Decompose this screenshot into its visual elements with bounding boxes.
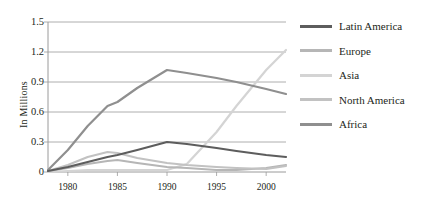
legend-color-swatch: [300, 74, 332, 77]
legend-label: Europe: [339, 45, 371, 57]
line-chart-figure: In Millions 00.30.60.91.21.5 19801985199…: [0, 0, 421, 206]
x-axis-tick-label: 1990: [147, 182, 187, 192]
series-line-africa: [48, 70, 286, 170]
x-axis-tick-label: 2000: [246, 182, 286, 192]
y-axis-tick-label: 1.5: [31, 17, 44, 28]
series-line-north-america: [48, 152, 286, 171]
chart-legend: Latin AmericaEuropeAsiaNorth AmericaAfri…: [300, 14, 421, 137]
legend-item: Europe: [300, 39, 421, 64]
x-axis-tick-label: 1985: [97, 182, 137, 192]
x-axis-tick-label: 1995: [197, 182, 237, 192]
y-axis-tick-label: 0.9: [31, 77, 44, 88]
legend-item: Asia: [300, 63, 421, 88]
x-axis-tick-label: 1980: [48, 182, 88, 192]
legend-label: Latin America: [339, 20, 402, 32]
legend-item: Africa: [300, 112, 421, 137]
legend-color-swatch: [300, 25, 332, 28]
y-axis-tick-label: 0: [39, 167, 44, 178]
y-axis-tick-label: 1.2: [31, 47, 44, 58]
legend-color-swatch: [300, 49, 332, 52]
legend-color-swatch: [300, 123, 332, 126]
legend-label: North America: [339, 94, 405, 106]
legend-item: Latin America: [300, 14, 421, 39]
legend-color-swatch: [300, 98, 332, 101]
legend-label: Africa: [339, 118, 367, 130]
y-axis-tick-label: 0.3: [31, 137, 44, 148]
legend-label: Asia: [339, 69, 359, 81]
y-axis-tick-label: 0.6: [31, 107, 44, 118]
y-axis-title: In Millions: [18, 81, 29, 128]
legend-item: North America: [300, 88, 421, 113]
